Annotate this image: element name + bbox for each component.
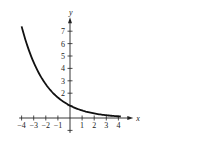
x-tick-label: 2 bbox=[92, 121, 96, 130]
y-tick-label: 4 bbox=[61, 64, 65, 73]
decay-curve bbox=[22, 26, 121, 116]
x-tick-label: 3 bbox=[104, 121, 108, 130]
y-tick-label: 3 bbox=[61, 77, 65, 86]
x-tick-label: −4 bbox=[17, 121, 26, 130]
x-tick-label: −2 bbox=[42, 121, 51, 130]
y-tick-label: 6 bbox=[61, 40, 65, 49]
y-tick-label: 2 bbox=[61, 89, 65, 98]
y-axis-arrow-icon bbox=[68, 17, 72, 23]
x-axis-label: x bbox=[135, 114, 140, 123]
x-axis-arrow-icon bbox=[127, 116, 133, 120]
y-tick-label: 5 bbox=[61, 52, 65, 61]
x-tick-label: −1 bbox=[54, 121, 63, 130]
y-axis-label: y bbox=[68, 8, 73, 17]
x-tick-label: 1 bbox=[80, 121, 84, 130]
y-tick-label: 7 bbox=[61, 27, 65, 36]
x-tick-label: 4 bbox=[116, 121, 120, 130]
x-tick-label: −3 bbox=[29, 121, 38, 130]
exponential-decay-chart: −4−3−2−11234234567 x y bbox=[0, 0, 211, 145]
